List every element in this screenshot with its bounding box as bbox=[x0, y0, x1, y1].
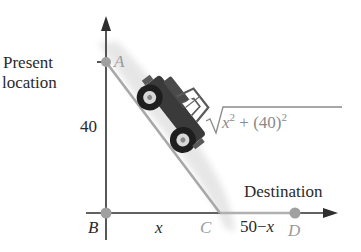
distance-diagram: Present location A 40 B x C 50−x D Desti… bbox=[0, 0, 361, 252]
point-d bbox=[290, 208, 301, 219]
point-a-label: A bbox=[114, 53, 124, 70]
present-label-line2: location bbox=[2, 74, 57, 91]
destination-label: Destination bbox=[244, 183, 322, 200]
point-d-label: D bbox=[288, 222, 300, 239]
formula-exp2: 2 bbox=[281, 111, 287, 123]
vertical-length-label: 40 bbox=[80, 118, 97, 135]
present-label-line1: Present bbox=[3, 54, 53, 71]
segment-bc-label: x bbox=[155, 219, 163, 236]
right-arrow-icon bbox=[323, 208, 338, 218]
segment-cd-label: 50−x bbox=[240, 218, 274, 235]
point-b bbox=[101, 208, 112, 219]
point-c-label: C bbox=[200, 219, 211, 236]
formula-plus-term: + (40) bbox=[235, 113, 281, 132]
segment-cd-var: x bbox=[267, 217, 275, 236]
point-b-label: B bbox=[88, 219, 98, 236]
point-a bbox=[101, 57, 111, 67]
up-arrow-icon bbox=[101, 16, 111, 31]
segment-cd-prefix: 50− bbox=[240, 217, 267, 236]
formula-var: x bbox=[222, 113, 230, 132]
formula-radicand: x2 + (40)2 bbox=[222, 111, 287, 133]
